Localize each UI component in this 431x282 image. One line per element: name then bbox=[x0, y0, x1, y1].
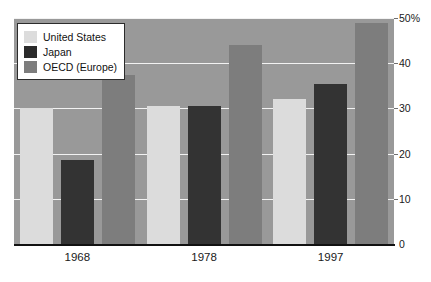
legend-label: United States bbox=[43, 31, 106, 43]
y-tick-label-0: 0 bbox=[399, 239, 405, 249]
bar-1978-us[interactable] bbox=[147, 106, 180, 244]
bar-1997-jp[interactable] bbox=[314, 84, 347, 245]
bar-1968-jp[interactable] bbox=[61, 160, 94, 244]
legend-swatch-icon-oecd bbox=[24, 61, 37, 73]
bar-1968-us[interactable] bbox=[20, 108, 53, 244]
y-tick-label-40: 40 bbox=[399, 58, 411, 68]
gridline-50 bbox=[14, 18, 394, 19]
chart-legend: United StatesJapanOECD (Europe) bbox=[17, 23, 125, 80]
y-tick-label-10: 10 bbox=[399, 194, 411, 204]
legend-swatch-icon-us bbox=[24, 31, 37, 43]
bar-1997-us[interactable] bbox=[273, 99, 306, 244]
bar-1978-oecd[interactable] bbox=[229, 45, 262, 244]
bar-1968-oecd[interactable] bbox=[102, 75, 135, 245]
legend-item-oecd[interactable]: OECD (Europe) bbox=[24, 59, 117, 74]
y-tick-mark-50 bbox=[394, 18, 398, 19]
legend-item-jp[interactable]: Japan bbox=[24, 44, 117, 59]
bar-1978-jp[interactable] bbox=[188, 106, 221, 244]
x-tick-label-1968: 1968 bbox=[14, 251, 141, 263]
y-tick-label-30: 30 bbox=[399, 103, 411, 113]
bar-chart: 01020304050% 196819781997 United StatesJ… bbox=[0, 0, 431, 282]
bar-1997-oecd[interactable] bbox=[355, 23, 388, 245]
y-tick-label-50: 50% bbox=[399, 13, 420, 23]
y-tick-label-20: 20 bbox=[399, 149, 411, 159]
y-tick-mark-20 bbox=[394, 154, 398, 155]
legend-swatch-icon-jp bbox=[24, 46, 37, 58]
x-tick-label-1978: 1978 bbox=[141, 251, 268, 263]
x-axis-line bbox=[14, 244, 395, 246]
legend-label: OECD (Europe) bbox=[43, 61, 117, 73]
legend-label: Japan bbox=[43, 46, 72, 58]
y-tick-mark-30 bbox=[394, 108, 398, 109]
y-tick-mark-10 bbox=[394, 199, 398, 200]
x-tick-label-1997: 1997 bbox=[267, 251, 394, 263]
y-tick-mark-40 bbox=[394, 63, 398, 64]
legend-item-us[interactable]: United States bbox=[24, 29, 117, 44]
